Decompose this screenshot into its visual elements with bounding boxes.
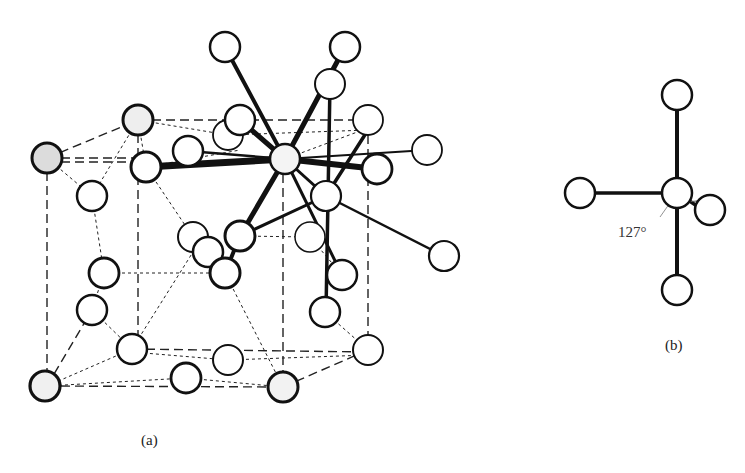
bonds [146, 47, 444, 312]
atom [117, 334, 147, 364]
atom-shaded [30, 371, 60, 401]
atom-shaded [268, 372, 298, 402]
atom [89, 258, 119, 288]
atom [131, 152, 161, 182]
atom [662, 80, 692, 110]
atom [362, 154, 392, 184]
atom [662, 275, 692, 305]
atom [695, 195, 725, 225]
atom [213, 345, 243, 375]
atom-shaded [123, 105, 153, 135]
caption-a: (a) [141, 432, 158, 449]
atom [310, 297, 340, 327]
atom [225, 105, 255, 135]
atom [330, 32, 360, 62]
atom [311, 181, 341, 211]
central-atom [662, 178, 692, 208]
central-atom [270, 144, 300, 174]
atom [353, 335, 383, 365]
coordination-geometry-b [565, 80, 725, 305]
atom [171, 363, 201, 393]
atom [77, 181, 107, 211]
atom [565, 178, 595, 208]
caption-b: (b) [665, 337, 683, 354]
atom [353, 105, 383, 135]
atom [412, 135, 442, 165]
atom [77, 295, 107, 325]
atom [327, 260, 357, 290]
atom [429, 241, 459, 271]
atom [210, 32, 240, 62]
atom [295, 222, 325, 252]
atom [315, 69, 345, 99]
atom [210, 258, 240, 288]
atom-shaded [32, 143, 62, 173]
angle-label: 127° [618, 224, 647, 241]
atom [173, 136, 203, 166]
atom [225, 221, 255, 251]
